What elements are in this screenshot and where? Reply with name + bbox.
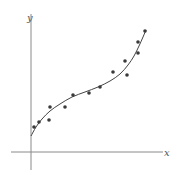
data-point xyxy=(87,91,91,95)
data-point xyxy=(71,93,75,97)
data-point xyxy=(136,51,140,55)
data-point xyxy=(111,70,115,74)
data-point xyxy=(37,120,41,124)
scatter-plot: y x xyxy=(0,0,178,175)
data-point xyxy=(63,105,67,109)
data-point xyxy=(143,29,147,33)
x-axis-label: x xyxy=(164,147,170,158)
y-axis-label: y xyxy=(26,12,33,23)
data-point xyxy=(136,40,140,44)
data-point xyxy=(123,59,127,63)
data-point xyxy=(48,105,52,109)
data-point xyxy=(98,85,102,89)
data-point xyxy=(47,118,51,122)
data-points xyxy=(32,29,147,129)
data-point xyxy=(32,125,36,129)
data-point xyxy=(125,73,129,77)
